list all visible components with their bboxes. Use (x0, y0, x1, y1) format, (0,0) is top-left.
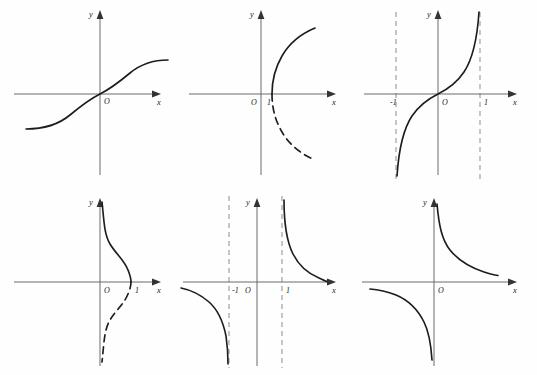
curve-right-branch (284, 200, 327, 282)
graph-panel-1: x y O (0, 0, 179, 187)
y-axis-label: y (88, 197, 93, 207)
x-axis-label: x (331, 285, 336, 295)
graph-panel-3: x y O -1 1 (358, 0, 537, 187)
tick-label-x-1: 1 (267, 98, 271, 107)
tick-label-x-pos1: 1 (484, 98, 488, 107)
origin-label: O (438, 286, 444, 295)
graph-panel-4-svg: x y O 1 (0, 188, 179, 375)
y-axis-label: y (88, 9, 93, 19)
y-axis-arrowhead (97, 10, 104, 19)
figure-sheet: x y O x y O 1 x y (0, 0, 537, 375)
origin-label: O (245, 286, 251, 295)
graph-panel-2: x y O 1 (179, 0, 358, 187)
curve-hyperbola-right-branch (437, 204, 498, 276)
x-axis-label: x (156, 285, 161, 295)
x-axis-label: x (512, 285, 517, 295)
y-axis-label: y (245, 197, 250, 207)
y-axis-arrowhead (254, 198, 261, 207)
graph-panel-5-svg: x y O -1 1 (179, 188, 358, 375)
graph-panel-2-svg: x y O 1 (179, 0, 358, 187)
curve-hyperbola-left-branch (370, 289, 432, 360)
origin-label: O (104, 97, 110, 106)
graph-panel-6-svg: x y O (358, 188, 537, 375)
y-axis-label: y (422, 197, 427, 207)
tick-label-x-pos1: 1 (286, 286, 290, 295)
origin-label: O (442, 98, 448, 107)
origin-label: O (104, 286, 110, 295)
graph-panel-5: x y O -1 1 (179, 188, 358, 375)
graph-panel-1-svg: x y O (0, 0, 179, 187)
curve-parabola-upper (272, 28, 315, 94)
graph-panel-6: x y O (358, 188, 537, 375)
graph-panel-4: x y O 1 (0, 188, 179, 375)
curve-parabola-lower (272, 94, 315, 160)
tick-label-x-neg1: -1 (390, 98, 397, 107)
x-axis-label: x (512, 97, 517, 107)
y-axis-arrowhead (258, 10, 265, 19)
x-axis-label: x (156, 97, 161, 107)
x-axis-label: x (331, 97, 336, 107)
origin-label: O (251, 98, 257, 107)
curve-left-branch (181, 288, 228, 364)
tick-label-x-neg1: -1 (232, 286, 239, 295)
tick-label-x-1: 1 (135, 286, 139, 295)
y-axis-label: y (249, 9, 254, 19)
graph-panel-3-svg: x y O -1 1 (358, 0, 537, 187)
y-axis-label: y (426, 9, 431, 19)
y-axis-arrowhead (435, 10, 442, 19)
curve-upper-branch (102, 202, 131, 282)
